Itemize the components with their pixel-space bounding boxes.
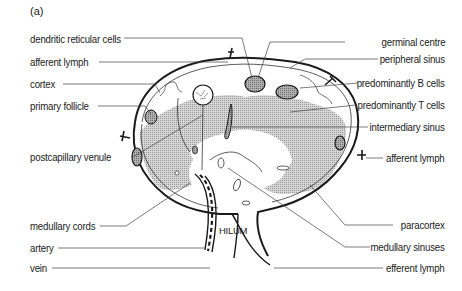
label-primary-follicle: primary follicle bbox=[30, 100, 89, 112]
label-medullary-cords: medullary cords bbox=[30, 220, 95, 232]
primary-follicle-shape bbox=[145, 110, 157, 124]
label-germinal-centre: germinal centre bbox=[381, 36, 445, 48]
label-artery: artery bbox=[30, 242, 54, 254]
label-cortex: cortex bbox=[30, 78, 55, 90]
label-peripheral-sinus: peripheral sinus bbox=[380, 53, 445, 65]
label-postcapillary-venule: postcapillary venule bbox=[30, 151, 111, 163]
label-intermediary-sinus: intermediary sinus bbox=[370, 121, 445, 133]
label-dendritic-reticular-cells: dendritic reticular cells bbox=[30, 33, 121, 45]
label-afferent-lymph-left: afferent lymph bbox=[30, 56, 88, 68]
hilum-label: HILUM bbox=[219, 225, 247, 236]
b-cell-follicle bbox=[276, 85, 298, 99]
label-paracortex: paracortex bbox=[401, 219, 445, 231]
panel-label: (a) bbox=[30, 5, 43, 17]
label-afferent-lymph-right: afferent lymph bbox=[387, 152, 445, 164]
label-predominantly-t-cells: predominantly T cells bbox=[358, 99, 445, 111]
label-vein: vein bbox=[30, 262, 47, 274]
germinal-centre-follicle bbox=[245, 76, 265, 92]
label-medullary-sinuses: medullary sinuses bbox=[371, 241, 445, 253]
label-efferent-lymph: efferent lymph bbox=[387, 262, 445, 274]
dendritic-cell-follicle bbox=[193, 85, 213, 105]
label-predominantly-b-cells: predominantly B cells bbox=[357, 77, 445, 89]
